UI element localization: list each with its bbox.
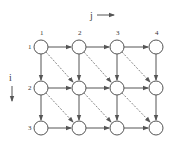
- node-1-1: [34, 40, 48, 54]
- row-label-1: 1: [28, 43, 32, 51]
- i-axis-label: i: [9, 72, 12, 83]
- node-3-1: [34, 121, 48, 135]
- node-3-3: [110, 121, 124, 135]
- vertical-edges: [41, 54, 156, 120]
- node-2-2: [72, 81, 86, 95]
- row-label-2: 2: [28, 84, 32, 92]
- node-1-4: [149, 40, 163, 54]
- node-2-4: [149, 81, 163, 95]
- node-3-4: [149, 121, 163, 135]
- node-3-2: [72, 121, 86, 135]
- j-axis: j: [89, 10, 114, 21]
- node-2-3: [110, 81, 124, 95]
- node-1-3: [110, 40, 124, 54]
- horizontal-edges: [48, 47, 148, 128]
- node-2-1: [34, 81, 48, 95]
- column-label-1: 1: [40, 29, 44, 37]
- column-label-3: 3: [116, 29, 120, 37]
- column-label-2: 2: [78, 29, 82, 37]
- j-axis-label: j: [89, 10, 93, 21]
- node-1-2: [72, 40, 86, 54]
- dependency-grid-diagram: j i 1 2 3 4 1 2 3: [0, 0, 174, 149]
- i-axis: i: [9, 72, 12, 101]
- column-label-4: 4: [155, 29, 159, 37]
- diagonal-edges: [46, 52, 150, 122]
- row-label-3: 3: [28, 124, 32, 132]
